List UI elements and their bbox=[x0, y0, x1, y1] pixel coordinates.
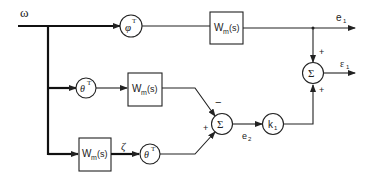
svg-text:φ: φ bbox=[125, 21, 131, 33]
line-wm-mid-to-sum bbox=[162, 88, 215, 116]
svg-text:(s): (s) bbox=[147, 84, 158, 94]
svg-text:T: T bbox=[132, 17, 137, 25]
svg-text:Σ: Σ bbox=[308, 67, 314, 79]
svg-text:T: T bbox=[87, 79, 92, 87]
svg-text:e: e bbox=[336, 12, 342, 23]
wm-bot-block: W m (s) bbox=[79, 138, 111, 171]
svg-text:θ: θ bbox=[80, 83, 85, 94]
thetaT-bot-node: θ T bbox=[140, 144, 160, 164]
e2-label: e 2 bbox=[242, 131, 252, 142]
svg-text:ε: ε bbox=[340, 58, 344, 69]
svg-text:1: 1 bbox=[343, 18, 347, 24]
svg-text:T: T bbox=[151, 145, 156, 153]
zeta-label: ζ bbox=[121, 140, 127, 153]
sign-sum-out-top: + bbox=[319, 47, 324, 57]
sum-out-node: Σ bbox=[303, 63, 324, 84]
thetaT-mid-node: θ T bbox=[76, 78, 96, 98]
e1-label: e 1 bbox=[336, 12, 347, 24]
svg-text:Σ: Σ bbox=[217, 118, 223, 130]
input-omega-label: ω bbox=[20, 5, 29, 20]
svg-text:θ: θ bbox=[144, 149, 149, 160]
wm-top-block: W m (s) bbox=[210, 12, 243, 44]
svg-text:(s): (s) bbox=[229, 23, 240, 33]
svg-text:1: 1 bbox=[346, 64, 350, 70]
svg-text:2: 2 bbox=[248, 136, 252, 142]
eps1-label: ε 1 bbox=[340, 58, 350, 70]
sign-sum-out-bottom: + bbox=[319, 85, 324, 95]
k1-node: k 1 bbox=[263, 114, 284, 135]
svg-text:e: e bbox=[242, 131, 247, 141]
wm-mid-block: W m (s) bbox=[128, 73, 162, 106]
sum-mid-node: Σ bbox=[212, 114, 233, 135]
sign-sum-mid-top: − bbox=[215, 96, 221, 108]
svg-text:(s): (s) bbox=[97, 149, 108, 159]
block-diagram: ω φ T W m (s) e 1 + Σ ε 1 + θ T W bbox=[0, 0, 370, 179]
line-theta-bot-to-sum bbox=[160, 132, 215, 154]
line-k1-to-sum-out bbox=[284, 85, 313, 124]
sign-sum-mid-bottom: + bbox=[203, 123, 208, 133]
phiT-node: φ T bbox=[120, 15, 142, 37]
